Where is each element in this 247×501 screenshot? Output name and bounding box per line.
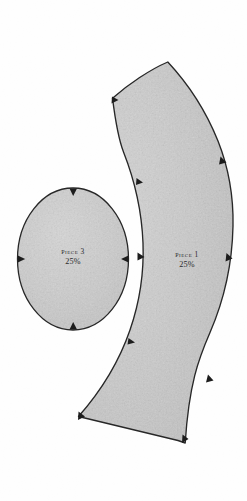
scan-grain-overlay [0, 0, 247, 501]
pattern-sheet: Quilted Hat pp368–9 [0, 0, 247, 501]
pattern-canvas [0, 0, 247, 501]
